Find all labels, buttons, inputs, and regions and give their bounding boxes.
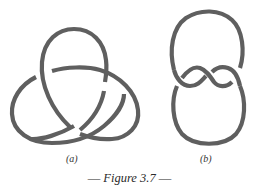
caption-dash-right: —: [159, 171, 172, 185]
trefoil-strand-right: [80, 91, 104, 130]
figure-eight-knot: [172, 11, 244, 143]
figure-3-7: (a) (b) — Figure 3.7 —: [0, 0, 259, 193]
caption-title: Figure 3.7: [103, 171, 155, 185]
panel-label-b: (b): [200, 154, 212, 164]
trefoil-knot: [12, 29, 138, 143]
caption-dash-left: —: [88, 171, 101, 185]
figure-caption: — Figure 3.7 —: [0, 172, 259, 185]
figure-eight-bottom-loop: [173, 86, 244, 144]
knot-diagrams: [0, 0, 259, 193]
figure-eight-twist-center: [182, 67, 232, 86]
panel-label-a: (a): [66, 154, 78, 164]
trefoil-strand-left-lobe: [12, 77, 124, 143]
figure-eight-top-loop: [172, 11, 243, 70]
trefoil-strand-connector: [30, 126, 74, 139]
